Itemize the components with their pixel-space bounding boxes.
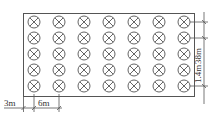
circle-x-icon: [103, 32, 115, 44]
circle-x-icon: [103, 48, 115, 60]
circle-x-icon: [78, 32, 90, 44]
circle-x-icon: [53, 80, 65, 92]
boundary-rectangle: [24, 14, 195, 97]
circle-x-icon: [103, 16, 115, 28]
circle-x-icon: [128, 80, 140, 92]
circle-x-icon: [178, 48, 190, 60]
circle-x-icon: [153, 16, 165, 28]
circle-x-icon: [53, 16, 65, 28]
circle-x-icon: [53, 48, 65, 60]
circle-x-icon: [178, 32, 190, 44]
circle-x-icon: [78, 64, 90, 76]
circle-x-icon: [178, 80, 190, 92]
circle-x-icon: [128, 64, 140, 76]
circle-x-icon: [153, 64, 165, 76]
circle-x-icon: [128, 16, 140, 28]
circle-x-icon: [153, 32, 165, 44]
circle-x-icon: [153, 48, 165, 60]
circle-x-icon: [128, 48, 140, 60]
circle-x-icon: [53, 32, 65, 44]
circle-x-icon: [128, 32, 140, 44]
circle-x-icon: [28, 80, 40, 92]
dimension-edge-offset: 3m: [4, 98, 16, 108]
layout-diagram: 38m 1.4m 3m 6m: [0, 0, 216, 117]
circle-x-icon: [28, 64, 40, 76]
circle-x-icon: [103, 64, 115, 76]
circle-x-icon: [103, 80, 115, 92]
dimension-row-spacing: 1.4m: [193, 65, 203, 83]
circle-x-icon: [28, 48, 40, 60]
circle-x-icon: [178, 64, 190, 76]
circle-x-icon: [28, 16, 40, 28]
dimension-total-length: 38m: [193, 48, 203, 64]
circle-x-icon: [153, 80, 165, 92]
circle-x-icon: [78, 16, 90, 28]
symbol-grid: [28, 16, 190, 92]
dimension-column-spacing: 6m: [38, 98, 50, 108]
circle-x-icon: [78, 48, 90, 60]
circle-x-icon: [78, 80, 90, 92]
circle-x-icon: [28, 32, 40, 44]
circle-x-icon: [178, 16, 190, 28]
circle-x-icon: [53, 64, 65, 76]
